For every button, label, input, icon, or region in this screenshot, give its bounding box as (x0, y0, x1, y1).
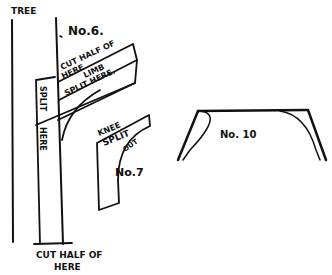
label-here-bottom: HERE (54, 262, 81, 272)
bottom-cut-line (34, 243, 72, 244)
label-cut-half-of-bottom: CUT HALF OF (36, 250, 103, 260)
label-here-vertical: HERE (38, 127, 47, 151)
boat-knee-diagram: TREE No.6. CUT HALF OF HERE LIMB SPLIT H… (0, 0, 332, 275)
label-no10: No. 10 (220, 129, 256, 140)
tick-mark (60, 36, 62, 37)
split-diagonal-line (36, 83, 135, 125)
tree-trunk-left-line (12, 20, 13, 242)
label-tree: TREE (11, 6, 36, 16)
label-no6: No.6. (68, 24, 104, 38)
tree-trunk-right-line (56, 18, 63, 244)
label-no7: No.7 (115, 166, 144, 179)
label-split-vertical: SPLIT (38, 86, 47, 112)
